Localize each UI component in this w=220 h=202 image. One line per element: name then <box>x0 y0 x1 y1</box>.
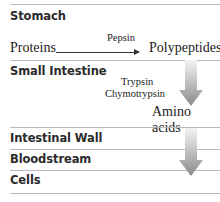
stage-stomach-label: Stomach <box>10 9 66 23</box>
product-polypeptides: Polypeptides <box>149 40 220 56</box>
stage-cells-label: Cells <box>10 173 40 187</box>
reaction-arrow-icon <box>56 52 139 53</box>
down-arrow-icon <box>179 60 203 106</box>
divider-bottom <box>10 193 220 194</box>
enzyme-trypsin: Trypsin <box>121 76 153 87</box>
stage-small-intestine-label: Small Intestine <box>10 64 106 78</box>
enzyme-pepsin: Pepsin <box>107 32 135 43</box>
absorption-down-arrow-icon <box>179 128 203 176</box>
enzyme-chymotrypsin: Chymotrypsin <box>105 88 165 99</box>
divider-top <box>10 4 220 5</box>
stage-intestinal-wall-label: Intestinal Wall <box>10 131 102 145</box>
stage-bloodstream-label: Bloodstream <box>10 152 91 166</box>
substrate-proteins: Proteins <box>10 40 56 56</box>
